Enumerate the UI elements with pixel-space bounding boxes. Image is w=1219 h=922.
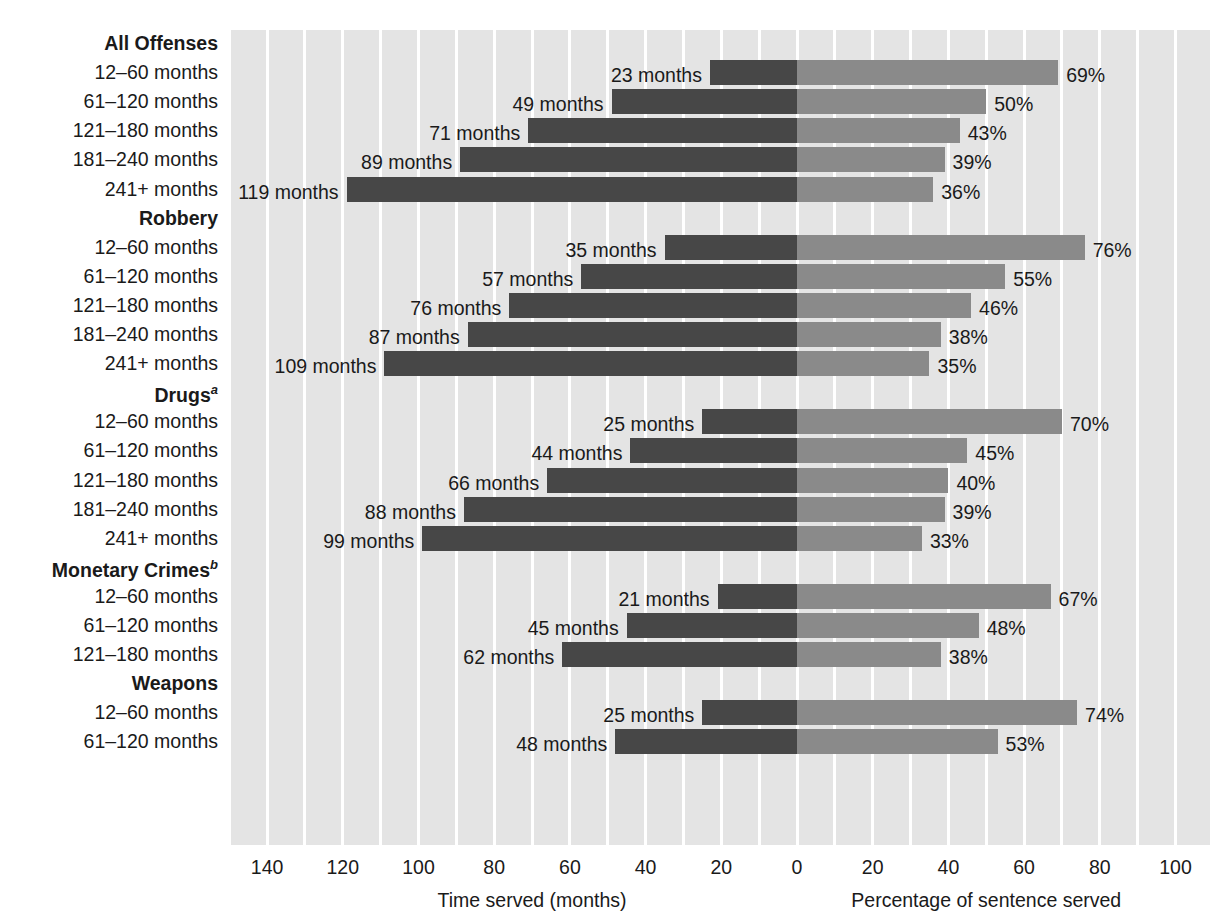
value-label-months: 119 months [238, 183, 338, 203]
row-label: 241+ months [0, 529, 218, 549]
axis-tick-left: 120 [313, 858, 373, 878]
axis-tick-right: 80 [1070, 858, 1130, 878]
axis-tick-left: 100 [389, 858, 449, 878]
value-label-percent: 67% [1059, 590, 1098, 610]
axis-tick-left: 80 [464, 858, 524, 878]
row-label: 12–60 months [0, 587, 218, 607]
value-label-percent: 50% [994, 95, 1033, 115]
value-label-months: 25 months [603, 415, 694, 435]
row-label: 241+ months [0, 354, 218, 374]
bar-percent [797, 264, 1005, 289]
value-label-months: 49 months [512, 95, 603, 115]
bar-percent [797, 293, 971, 318]
group-header: Drugsa [0, 383, 218, 405]
group-header-label: Robbery [139, 207, 218, 229]
gridline [455, 30, 458, 845]
bar-months [562, 642, 797, 667]
axis-tick-right: 20 [843, 858, 903, 878]
row-label: 121–180 months [0, 121, 218, 141]
value-label-percent: 76% [1093, 241, 1132, 261]
bar-percent [797, 409, 1062, 434]
axis-tick-right: 100 [1146, 858, 1206, 878]
value-label-months: 109 months [275, 357, 377, 377]
row-label: 61–120 months [0, 267, 218, 287]
row-label: 241+ months [0, 180, 218, 200]
left-axis-title: Time served (months) [382, 891, 682, 911]
axis-tick-left: 20 [691, 858, 751, 878]
group-footnote-marker: a [211, 382, 218, 397]
bar-percent [797, 147, 945, 172]
value-label-months: 76 months [410, 299, 501, 319]
value-label-percent: 74% [1085, 706, 1124, 726]
value-label-months: 89 months [361, 153, 452, 173]
value-label-percent: 33% [930, 532, 969, 552]
value-label-percent: 46% [979, 299, 1018, 319]
bar-months [612, 89, 797, 114]
bar-percent [797, 235, 1085, 260]
bar-percent [797, 729, 998, 754]
value-label-months: 21 months [618, 590, 709, 610]
gridline [1174, 30, 1177, 845]
row-label: 12–60 months [0, 412, 218, 432]
bar-months [630, 438, 797, 463]
row-label: 61–120 months [0, 441, 218, 461]
bar-percent [797, 584, 1051, 609]
row-label: 121–180 months [0, 296, 218, 316]
value-label-months: 35 months [565, 241, 656, 261]
axis-tick-zero: 0 [767, 858, 827, 878]
gridline [1136, 30, 1139, 845]
plot-area: 23 months69%49 months50%71 months43%89 m… [228, 30, 1210, 845]
row-label: 61–120 months [0, 732, 218, 752]
value-label-percent: 38% [949, 648, 988, 668]
value-label-months: 62 months [463, 648, 554, 668]
gridline [266, 30, 269, 845]
value-label-percent: 55% [1013, 270, 1052, 290]
row-label-column: All Offenses12–60 months61–120 months121… [0, 30, 218, 845]
bar-months [665, 235, 797, 260]
value-label-months: 71 months [429, 124, 520, 144]
group-header: Monetary Crimesb [0, 558, 218, 580]
bar-months [718, 584, 797, 609]
bar-percent [797, 322, 941, 347]
bar-months [509, 293, 797, 318]
group-header-label: Drugs [154, 384, 210, 406]
row-label: 181–240 months [0, 150, 218, 170]
x-axis: 14012010080604020020406080100 Time serve… [0, 845, 1219, 922]
chart-page: 23 months69%49 months50%71 months43%89 m… [0, 0, 1219, 922]
bar-percent [797, 118, 960, 143]
value-label-months: 25 months [603, 706, 694, 726]
bar-percent [797, 468, 948, 493]
group-header: Robbery [0, 209, 218, 229]
value-label-percent: 53% [1006, 735, 1045, 755]
value-label-months: 57 months [482, 270, 573, 290]
bar-months [702, 409, 797, 434]
value-label-percent: 45% [975, 444, 1014, 464]
value-label-months: 87 months [369, 328, 460, 348]
value-label-percent: 70% [1070, 415, 1109, 435]
bar-percent [797, 497, 945, 522]
gridline [303, 30, 306, 845]
bar-months [528, 118, 797, 143]
bar-months [710, 60, 797, 85]
value-label-months: 45 months [528, 619, 619, 639]
value-label-percent: 48% [987, 619, 1026, 639]
bar-months [460, 147, 797, 172]
group-footnote-marker: b [210, 557, 218, 572]
value-label-months: 48 months [516, 735, 607, 755]
group-header-label: Monetary Crimes [52, 558, 210, 580]
value-label-percent: 35% [937, 357, 976, 377]
row-label: 61–120 months [0, 616, 218, 636]
axis-tick-right: 60 [994, 858, 1054, 878]
row-label: 121–180 months [0, 471, 218, 491]
group-header-label: Weapons [132, 672, 218, 694]
group-header-label: All Offenses [104, 32, 218, 54]
value-label-months: 44 months [531, 444, 622, 464]
bar-months [581, 264, 797, 289]
value-label-percent: 38% [949, 328, 988, 348]
axis-tick-left: 60 [540, 858, 600, 878]
bar-percent [797, 613, 979, 638]
value-label-percent: 39% [953, 503, 992, 523]
value-label-percent: 69% [1066, 66, 1105, 86]
bar-months [347, 177, 797, 202]
bar-percent [797, 700, 1077, 725]
